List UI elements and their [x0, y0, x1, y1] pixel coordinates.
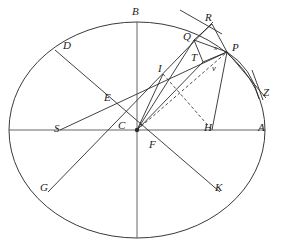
point-label-F: F	[149, 139, 156, 150]
point-label-R: R	[205, 12, 212, 23]
point-label-I: I	[158, 63, 162, 74]
line-C-to-T	[137, 62, 203, 130]
segment-layer	[9, 10, 266, 238]
geometry-diagram-canvas	[0, 0, 282, 243]
geometry-figure: ABCDEFGHIKPQRSTZvx	[0, 0, 282, 243]
point-label-v: v	[212, 64, 216, 73]
point-label-Z: Z	[263, 87, 269, 98]
point-label-E: E	[104, 92, 111, 103]
line-C-to-Q	[137, 40, 194, 130]
point-label-x: x	[214, 45, 217, 52]
point-label-D: D	[63, 40, 71, 51]
line-T-to-P	[203, 52, 227, 62]
line-C-to-I-extended	[137, 74, 163, 130]
point-label-A: A	[258, 122, 265, 133]
point-label-P: P	[232, 42, 239, 53]
center-dot-C	[135, 128, 139, 132]
point-label-S: S	[54, 123, 60, 134]
point-label-T: T	[191, 52, 197, 63]
point-label-B: B	[132, 6, 139, 17]
point-label-Q: Q	[183, 31, 191, 42]
point-label-C: C	[118, 120, 125, 131]
point-label-K: K	[215, 182, 222, 193]
point-label-G: G	[40, 182, 48, 193]
diameter-G-R-upper	[48, 22, 213, 192]
point-label-H: H	[204, 122, 212, 133]
dot-layer	[135, 128, 139, 132]
